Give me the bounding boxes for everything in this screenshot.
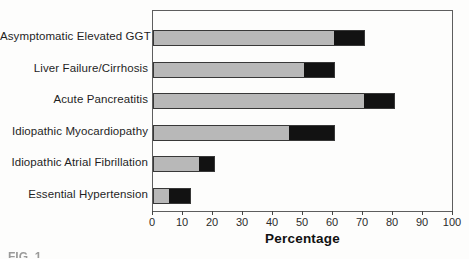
figure-caption-clipped: FIG. 1 — [8, 250, 41, 258]
gray-segment — [154, 189, 169, 203]
category-label-1: Asymptomatic Elevated GGT — [0, 29, 148, 43]
bar-3 — [153, 93, 395, 109]
black-segment — [169, 189, 190, 203]
x-tick-label: 0 — [137, 216, 167, 228]
x-tick — [452, 211, 453, 215]
x-tick-label: 80 — [377, 216, 407, 228]
x-tick-label: 60 — [317, 216, 347, 228]
gray-segment — [154, 31, 334, 45]
plot-area — [152, 10, 453, 212]
gray-segment — [154, 126, 289, 140]
category-label-2: Liver Failure/Cirrhosis — [0, 61, 148, 75]
black-segment — [304, 63, 334, 77]
x-tick — [332, 211, 333, 215]
x-tick-label: 90 — [407, 216, 437, 228]
category-label-4: Idiopathic Myocardiopathy — [0, 124, 148, 138]
category-label-3: Acute Pancreatitis — [0, 92, 148, 106]
black-segment — [199, 157, 214, 171]
x-tick — [212, 211, 213, 215]
x-tick — [362, 211, 363, 215]
x-tick-label: 10 — [167, 216, 197, 228]
x-tick — [272, 211, 273, 215]
x-tick-label: 30 — [227, 216, 257, 228]
x-tick — [422, 211, 423, 215]
bar-2 — [153, 62, 335, 78]
bar-6 — [153, 188, 191, 204]
bar-4 — [153, 125, 335, 141]
x-tick — [302, 211, 303, 215]
black-segment — [334, 31, 364, 45]
figure: Asymptomatic Elevated GGTLiver Failure/C… — [0, 0, 469, 259]
black-segment — [364, 94, 394, 108]
x-tick — [152, 211, 153, 215]
gray-segment — [154, 63, 304, 77]
gray-segment — [154, 94, 364, 108]
bar-1 — [153, 30, 365, 46]
gray-segment — [154, 157, 199, 171]
x-tick — [242, 211, 243, 215]
x-tick-label: 40 — [257, 216, 287, 228]
category-label-5: Idiopathic Atrial Fibrillation — [0, 155, 148, 169]
x-tick — [182, 211, 183, 215]
x-axis-title: Percentage — [152, 231, 453, 246]
bar-5 — [153, 156, 215, 172]
x-tick-label: 50 — [287, 216, 317, 228]
x-tick-label: 100 — [437, 216, 467, 228]
black-segment — [289, 126, 334, 140]
category-label-6: Essential Hypertension — [0, 187, 148, 201]
x-tick-label: 70 — [347, 216, 377, 228]
x-tick-label: 20 — [197, 216, 227, 228]
x-tick — [392, 211, 393, 215]
